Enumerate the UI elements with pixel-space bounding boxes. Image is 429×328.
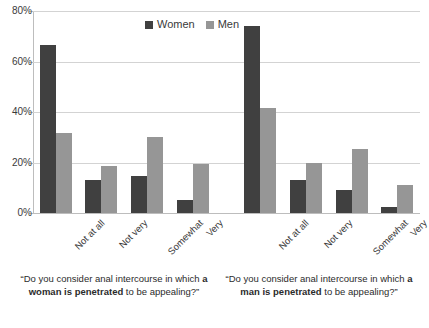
bar-men-somewhat-panel1 xyxy=(147,137,163,213)
caption-2-suffix: to be appealing?” xyxy=(322,286,398,297)
y-axis-tick-label: 60% xyxy=(2,57,32,67)
bar-men-not-very-panel1 xyxy=(101,166,117,213)
bar-women-very-panel2 xyxy=(381,207,397,213)
bar-women-very-panel1 xyxy=(177,200,193,213)
bar-men-not-at-all-panel1 xyxy=(56,133,72,213)
bar-women-not-very-panel1 xyxy=(85,180,101,213)
bar-women-somewhat-panel1 xyxy=(131,176,147,213)
y-axis-tick-label: 80% xyxy=(2,6,32,16)
x-axis-label-very-panel1: Very xyxy=(204,218,225,239)
grid-line xyxy=(33,62,420,63)
x-axis-label-not-very-panel2: Not very xyxy=(322,218,354,250)
grid-line xyxy=(33,112,420,113)
bar-men-very-panel1 xyxy=(193,164,209,213)
caption-1-suffix: to be appealing?” xyxy=(123,286,199,297)
bar-men-not-very-panel2 xyxy=(306,163,322,213)
caption-panel-1: “Do you consider anal intercourse in whi… xyxy=(14,272,214,298)
grid-line xyxy=(33,11,420,12)
x-axis-label-not-at-all-panel1: Not at all xyxy=(73,218,107,252)
y-axis-tick-label: 0% xyxy=(2,208,32,218)
bar-women-not-at-all-panel1 xyxy=(40,45,56,213)
bar-men-somewhat-panel2 xyxy=(352,149,368,213)
bar-women-not-at-all-panel2 xyxy=(244,26,260,213)
bar-women-somewhat-panel2 xyxy=(336,190,352,213)
plot-area xyxy=(33,11,420,213)
x-axis-label-not-at-all-panel2: Not at all xyxy=(277,218,311,252)
x-axis-label-not-very-panel1: Not very xyxy=(118,218,150,250)
y-axis-tick-label: 40% xyxy=(2,107,32,117)
y-axis-tick-label: 20% xyxy=(2,158,32,168)
bar-men-not-at-all-panel2 xyxy=(260,108,276,213)
x-axis-label-somewhat-panel1: Somewhat xyxy=(166,218,205,257)
x-axis-label-somewhat-panel2: Somewhat xyxy=(371,218,410,257)
caption-panel-2: “Do you consider anal intercourse in whi… xyxy=(219,272,419,298)
bar-women-not-very-panel2 xyxy=(290,180,306,213)
bar-men-very-panel2 xyxy=(397,185,413,213)
caption-1-prefix: “Do you consider anal intercourse in whi… xyxy=(21,273,203,284)
x-axis-label-very-panel2: Very xyxy=(409,218,429,239)
x-axis-line xyxy=(33,213,420,214)
caption-2-prefix: “Do you consider anal intercourse in whi… xyxy=(226,273,408,284)
